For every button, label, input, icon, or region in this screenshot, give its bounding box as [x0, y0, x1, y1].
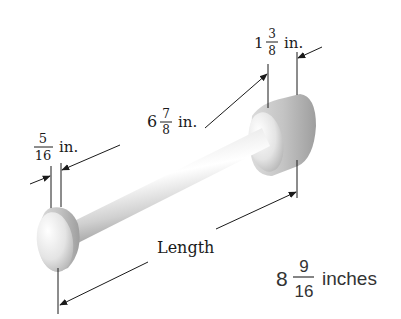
- head-thickness-numerator: 3: [268, 27, 276, 41]
- rod-shaft: [64, 128, 270, 246]
- total-unit: inches: [322, 268, 377, 289]
- total-whole: 8: [276, 267, 288, 290]
- total-numerator: 9: [299, 257, 308, 276]
- shaft-length-unit: in.: [178, 113, 197, 131]
- head-thickness-whole: 1: [254, 34, 264, 52]
- diagram-canvas: 5 16 in. 6 7 8 in. 1 3 8 in. Length 8 9 …: [0, 0, 401, 319]
- end-thickness-numerator: 5: [39, 131, 47, 146]
- end-thickness-denominator: 16: [35, 148, 52, 163]
- shaft-length-numerator: 7: [162, 107, 170, 121]
- total-denominator: 16: [295, 282, 314, 301]
- dimension-head-thickness: 1 3 8 in.: [254, 27, 322, 95]
- head-thickness-denominator: 8: [268, 44, 276, 58]
- shaft-length-whole: 6: [147, 112, 157, 131]
- head-thickness-unit: in.: [284, 34, 303, 52]
- left-disc-end: [33, 207, 80, 274]
- length-label: Length: [157, 238, 214, 257]
- end-thickness-unit: in.: [59, 138, 78, 156]
- shaft-length-denominator: 8: [162, 123, 170, 137]
- rod-diagram: 5 16 in. 6 7 8 in. 1 3 8 in. Length 8 9 …: [0, 0, 401, 319]
- total-length-answer: 8 9 16 inches: [276, 257, 377, 301]
- dimension-end-thickness: 5 16 in.: [30, 131, 120, 208]
